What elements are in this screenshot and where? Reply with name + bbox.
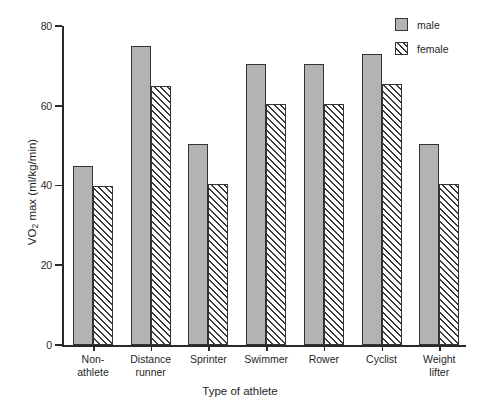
y-axis-title-subscript: 2 xyxy=(30,224,40,229)
y-axis-tick-label: 0 xyxy=(46,339,52,351)
legend-item-male: male xyxy=(395,18,449,31)
bar-female xyxy=(208,184,228,345)
x-axis-tick xyxy=(151,345,153,351)
bar-male xyxy=(304,64,324,345)
x-axis-category-label: Weightlifter xyxy=(396,353,480,379)
x-axis-category-line: runner xyxy=(108,366,194,379)
bar-group xyxy=(304,26,344,345)
bar-female xyxy=(382,84,402,345)
bar-male xyxy=(362,54,382,345)
y-axis-tick-label: 60 xyxy=(41,100,52,112)
bar-male xyxy=(131,46,151,345)
x-axis-category-line: lifter xyxy=(396,366,480,379)
bar-group xyxy=(131,26,171,345)
bar-group xyxy=(419,26,459,345)
bar-male xyxy=(246,64,266,345)
bar-female xyxy=(266,104,286,345)
x-axis-category-line: Weight xyxy=(396,353,480,366)
y-axis-tick-label: 40 xyxy=(41,179,52,191)
x-axis-line xyxy=(62,345,466,347)
bar-male xyxy=(419,144,439,345)
bar-male xyxy=(73,166,93,345)
legend-swatch-male xyxy=(395,18,408,31)
legend-swatch-female xyxy=(395,42,408,55)
x-axis-tick xyxy=(382,345,384,351)
x-axis-title: Type of athlete xyxy=(0,385,480,397)
y-axis-tick-label: 20 xyxy=(41,259,52,271)
x-axis-tick xyxy=(266,345,268,351)
chart-figure: 020406080 VO2 max (ml/kg/min) Non-athlet… xyxy=(0,0,480,408)
y-axis-title-prefix: VO xyxy=(26,229,38,246)
bar-group xyxy=(73,26,113,345)
y-axis-tick: 80 xyxy=(55,25,62,27)
x-axis-tick xyxy=(324,345,326,351)
plot-area xyxy=(62,26,466,345)
bar-female xyxy=(439,184,459,345)
bar-group xyxy=(246,26,286,345)
bar-female xyxy=(324,104,344,345)
bar-group xyxy=(362,26,402,345)
bar-male xyxy=(188,144,208,345)
y-axis-tick: 20 xyxy=(55,264,62,266)
y-axis-tick: 60 xyxy=(55,105,62,107)
y-axis-tick-label: 80 xyxy=(41,20,52,32)
bar-female xyxy=(93,186,113,346)
chart-legend: malefemale xyxy=(395,18,449,66)
bar-group xyxy=(188,26,228,345)
y-axis-tick: 40 xyxy=(55,185,62,187)
x-axis-tick xyxy=(93,345,95,351)
bar-female xyxy=(151,86,171,345)
y-axis-title-suffix: max (ml/kg/min) xyxy=(26,139,38,224)
x-axis-tick xyxy=(439,345,441,351)
x-axis-tick xyxy=(208,345,210,351)
legend-label-male: male xyxy=(417,19,440,31)
legend-label-female: female xyxy=(417,43,449,55)
y-axis-title: VO2 max (ml/kg/min) xyxy=(26,72,38,312)
legend-item-female: female xyxy=(395,42,449,55)
y-axis-tick: 0 xyxy=(55,344,62,346)
